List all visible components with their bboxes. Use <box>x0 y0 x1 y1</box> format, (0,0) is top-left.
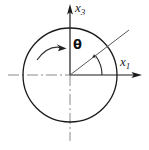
diagram-canvas <box>0 0 149 150</box>
rotation-angle-diagram: x3 x1 θ <box>0 0 149 150</box>
x1-axis-label: x1 <box>120 55 130 71</box>
rotation-direction-arc <box>37 47 61 60</box>
x3-axis-label-subscript: 3 <box>81 7 86 17</box>
x1-axis-label-subscript: 1 <box>126 61 131 71</box>
x3-axis-label: x3 <box>75 1 85 17</box>
angle-theta-label: θ <box>73 38 82 51</box>
angle-arc <box>96 56 102 75</box>
